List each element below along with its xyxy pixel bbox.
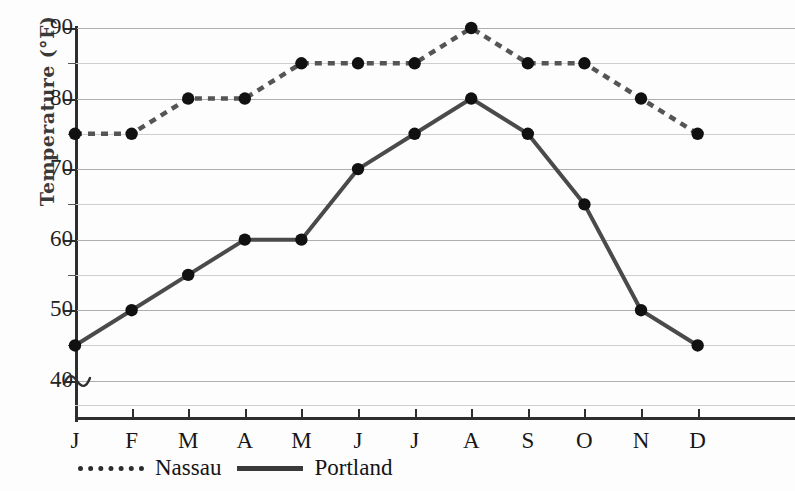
legend-item-nassau[interactable]: Nassau — [78, 455, 221, 481]
data-point-portland[interactable] — [408, 128, 420, 140]
data-point-nassau[interactable] — [125, 128, 137, 140]
x-tick-label: D — [678, 428, 718, 454]
data-point-portland[interactable] — [295, 233, 307, 245]
chart-legend: Nassau Portland — [78, 455, 392, 481]
x-tick-label: N — [621, 428, 661, 454]
data-point-portland[interactable] — [522, 128, 534, 140]
data-point-portland[interactable] — [125, 304, 137, 316]
legend-label-nassau: Nassau — [155, 455, 221, 481]
data-point-portland[interactable] — [691, 339, 703, 351]
y-tick-label: 60 — [13, 227, 73, 250]
x-tick-label: J — [395, 428, 435, 454]
legend-swatch-solid-icon — [237, 466, 303, 471]
data-point-portland[interactable] — [352, 163, 364, 175]
data-point-nassau[interactable] — [69, 128, 81, 140]
legend-label-portland: Portland — [314, 455, 392, 481]
data-point-nassau[interactable] — [691, 128, 703, 140]
y-tick-label: 90 — [13, 15, 73, 38]
data-point-nassau[interactable] — [352, 57, 364, 69]
chart-title — [0, 0, 795, 10]
x-tick-label: S — [508, 428, 548, 454]
data-point-nassau[interactable] — [465, 22, 477, 34]
series-plot — [75, 28, 795, 420]
x-tick-label: A — [451, 428, 491, 454]
chart-root: Temperature (°F) 908070605040 JFMAMJJASO… — [0, 0, 795, 491]
x-tick-label: J — [338, 428, 378, 454]
data-point-portland[interactable] — [182, 269, 194, 281]
data-point-nassau[interactable] — [239, 92, 251, 104]
x-tick-label: M — [281, 428, 321, 454]
x-tick-label: F — [112, 428, 152, 454]
plot-area: 908070605040 JFMAMJJASOND — [75, 28, 795, 420]
series-line-portland — [75, 99, 698, 346]
x-tick-label: A — [225, 428, 265, 454]
series-line-nassau — [75, 28, 698, 134]
data-point-portland[interactable] — [635, 304, 647, 316]
legend-item-portland[interactable]: Portland — [237, 455, 392, 481]
data-point-nassau[interactable] — [182, 92, 194, 104]
x-tick-label: O — [564, 428, 604, 454]
y-tick-label: 80 — [13, 86, 73, 109]
y-tick-label: 50 — [13, 297, 73, 320]
x-tick-label: J — [55, 428, 95, 454]
data-point-portland[interactable] — [239, 233, 251, 245]
data-point-portland[interactable] — [69, 339, 81, 351]
data-point-nassau[interactable] — [408, 57, 420, 69]
legend-swatch-dotted-icon — [78, 466, 144, 471]
x-tick-label: M — [168, 428, 208, 454]
data-point-nassau[interactable] — [522, 57, 534, 69]
data-point-nassau[interactable] — [578, 57, 590, 69]
y-tick-label: 70 — [13, 156, 73, 179]
data-point-portland[interactable] — [578, 198, 590, 210]
data-point-nassau[interactable] — [295, 57, 307, 69]
data-point-portland[interactable] — [465, 92, 477, 104]
data-point-nassau[interactable] — [635, 92, 647, 104]
